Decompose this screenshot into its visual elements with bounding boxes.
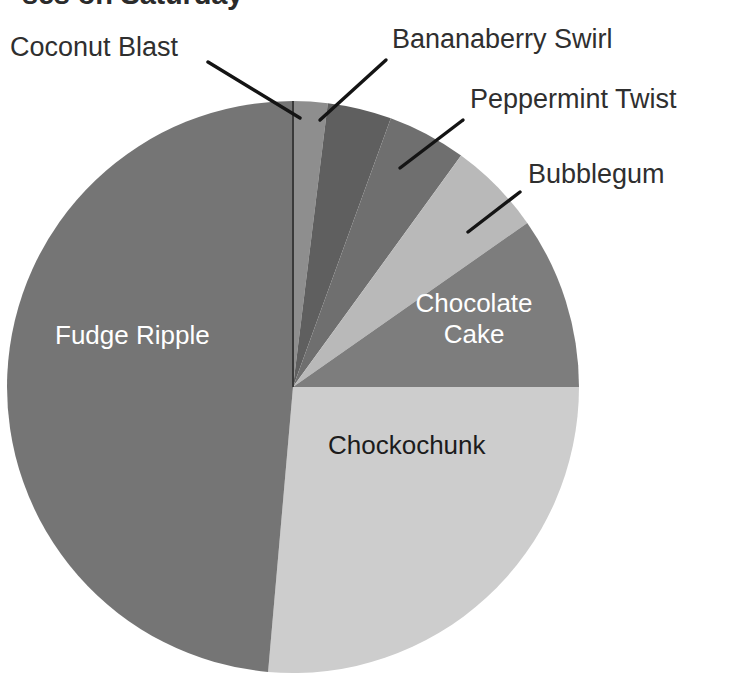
slice-label-chocolate-cake-line1: Chocolate [399,288,549,319]
slice-label-fudge-ripple: Fudge Ripple [55,320,210,351]
slice-label-chocolate-cake-line2: Cake [399,319,549,350]
slice-label-chocolate-cake: Chocolate Cake [399,288,549,349]
slice-label-bubblegum: Bubblegum [528,160,665,188]
slice-label-chockochunk: Chockochunk [328,430,486,461]
chart-canvas: ses on Saturday Coconut Blast Bananaberr… [0,0,752,680]
pie-slice-fudge-ripple[interactable] [7,101,293,672]
slice-label-peppermint-twist: Peppermint Twist [470,85,677,113]
slice-label-bananaberry-swirl: Bananaberry Swirl [392,25,613,53]
slice-label-coconut-blast: Coconut Blast [10,33,178,61]
